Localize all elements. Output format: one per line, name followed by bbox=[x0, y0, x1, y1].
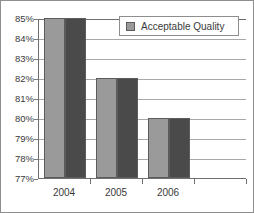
x-axis-tick-mark bbox=[194, 179, 195, 184]
bar-group bbox=[143, 19, 195, 178]
legend-label-acceptable-quality: Acceptable Quality bbox=[141, 21, 224, 32]
y-axis: 85%84%83%82%81%80%79%78%77% bbox=[1, 1, 38, 213]
bar bbox=[65, 18, 86, 178]
y-axis-tick-label: 82% bbox=[15, 74, 34, 84]
x-axis-category-label: 2006 bbox=[157, 187, 179, 198]
y-axis-tick-label: 79% bbox=[15, 134, 34, 144]
y-axis-tick-label: 80% bbox=[15, 114, 34, 124]
bar-group bbox=[39, 19, 91, 178]
bar bbox=[148, 118, 169, 178]
bar-group bbox=[91, 19, 143, 178]
bar bbox=[44, 18, 65, 178]
bar bbox=[117, 78, 138, 178]
y-axis-tick-label: 78% bbox=[15, 154, 34, 164]
x-axis-tick-mark bbox=[90, 179, 91, 184]
bars-layer bbox=[39, 19, 246, 178]
x-axis-category-label: 2004 bbox=[53, 187, 75, 198]
legend-swatch-acceptable-quality bbox=[126, 22, 135, 31]
y-axis-tick-label: 84% bbox=[15, 34, 34, 44]
plot-area bbox=[38, 19, 246, 179]
y-axis-tick-label: 85% bbox=[15, 14, 34, 24]
bar-chart-figure: 85%84%83%82%81%80%79%78%77% 200420052006… bbox=[0, 0, 254, 213]
x-axis-category-label: 2005 bbox=[105, 187, 127, 198]
y-axis-tick-label: 77% bbox=[15, 174, 34, 184]
y-axis-tick-mark bbox=[34, 179, 38, 180]
chart-legend: Acceptable Quality bbox=[119, 16, 239, 36]
bar bbox=[169, 118, 190, 178]
y-axis-tick-label: 83% bbox=[15, 54, 34, 64]
x-axis-tick-mark bbox=[142, 179, 143, 184]
bar bbox=[96, 78, 117, 178]
y-axis-tick-label: 81% bbox=[15, 94, 34, 104]
x-axis-tick-mark bbox=[246, 179, 247, 184]
